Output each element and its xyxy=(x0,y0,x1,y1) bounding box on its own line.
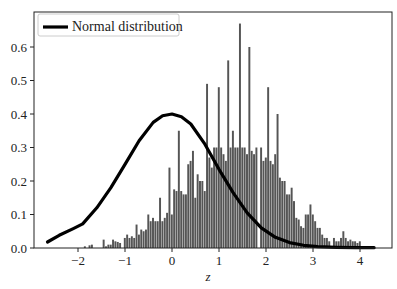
histogram-bar xyxy=(267,87,269,248)
histogram-bar xyxy=(305,215,307,249)
histogram-bar xyxy=(342,231,344,248)
histogram-bar xyxy=(110,245,112,248)
y-tick-label: 0.0 xyxy=(11,241,27,256)
histogram-bar xyxy=(225,161,227,248)
histogram-bar xyxy=(145,230,147,248)
histogram-bar xyxy=(265,158,267,248)
histogram-bar xyxy=(147,215,149,249)
histogram-bar xyxy=(201,181,203,248)
histogram-bar xyxy=(239,24,241,248)
x-tick-label: −1 xyxy=(118,253,132,268)
histogram-bar xyxy=(161,221,163,248)
histogram-bar xyxy=(114,241,116,248)
legend: Normal distribution xyxy=(38,14,183,36)
histogram-bar xyxy=(293,201,295,248)
histogram-bar xyxy=(241,148,243,249)
y-tick-label: 0.4 xyxy=(11,107,28,122)
legend-label: Normal distribution xyxy=(72,19,183,34)
y-tick-label: 0.1 xyxy=(11,207,27,222)
histogram-bar xyxy=(262,161,264,248)
histogram-bars xyxy=(84,24,361,248)
histogram-bar xyxy=(192,151,194,248)
histogram-bar xyxy=(180,191,182,248)
histogram-bar xyxy=(157,221,159,248)
histogram-bar xyxy=(176,191,178,248)
histogram-bar xyxy=(187,164,189,248)
histogram-bar xyxy=(107,245,109,248)
histogram-bar xyxy=(199,181,201,248)
histogram-bar xyxy=(154,221,156,248)
x-tick-label: 2 xyxy=(263,253,270,268)
histogram-bar xyxy=(319,228,321,248)
histogram-bar xyxy=(206,84,208,248)
histogram-bar xyxy=(190,161,192,248)
histogram-bar xyxy=(164,218,166,248)
histogram-bar xyxy=(150,221,152,248)
x-tick-label: 4 xyxy=(357,253,364,268)
histogram-bar xyxy=(309,204,311,248)
y-tick-label: 0.6 xyxy=(11,40,28,55)
histogram-bar xyxy=(220,148,222,249)
histogram-bar xyxy=(260,148,262,249)
histogram-bar xyxy=(185,194,187,248)
histogram-bar xyxy=(211,168,213,248)
x-axis-label: z xyxy=(204,269,210,284)
histogram-bar xyxy=(223,154,225,248)
histogram-bar xyxy=(133,238,135,248)
histogram-bar xyxy=(194,198,196,248)
histogram-bar xyxy=(183,194,185,248)
chart: −2−101234 0.00.10.20.30.40.50.6 z Normal… xyxy=(0,0,397,289)
histogram-bar xyxy=(126,235,128,248)
x-tick-label: −2 xyxy=(71,253,85,268)
histogram-bar xyxy=(314,221,316,248)
histogram-bar xyxy=(197,174,199,248)
histogram-bar xyxy=(168,168,170,248)
histogram-bar xyxy=(138,235,140,248)
histogram-bar xyxy=(255,148,257,249)
histogram-bar xyxy=(288,194,290,248)
histogram-bar xyxy=(119,243,121,248)
histogram-bar xyxy=(159,198,161,248)
histogram-bar xyxy=(124,238,126,248)
x-tick-label: 0 xyxy=(169,253,176,268)
histogram-bar xyxy=(166,213,168,248)
y-tick-label: 0.3 xyxy=(11,140,27,155)
histogram-bar xyxy=(284,181,286,248)
histogram-bar xyxy=(112,240,114,248)
histogram-bar xyxy=(117,242,119,248)
histogram-bar xyxy=(143,231,145,248)
histogram-bar xyxy=(171,215,173,249)
histogram-bar xyxy=(244,148,246,249)
histogram-bar xyxy=(251,151,253,248)
histogram-bar xyxy=(277,114,279,248)
histogram-bar xyxy=(317,228,319,248)
histogram-bar xyxy=(131,236,133,248)
histogram-bar xyxy=(253,154,255,248)
histogram-bar xyxy=(227,60,229,248)
histogram-bar xyxy=(204,191,206,248)
y-tick-label: 0.5 xyxy=(11,73,27,88)
histogram-bar xyxy=(307,215,309,249)
y-axis: 0.00.10.20.30.40.50.6 xyxy=(11,40,34,256)
histogram-bar xyxy=(129,238,131,248)
histogram-bar xyxy=(178,131,180,248)
y-tick-label: 0.2 xyxy=(11,174,27,189)
histogram-bar xyxy=(230,148,232,249)
plot-frame xyxy=(34,12,392,248)
histogram-bar xyxy=(140,230,142,248)
x-tick-label: 3 xyxy=(310,253,317,268)
histogram-bar xyxy=(136,225,138,248)
histogram-bar xyxy=(246,154,248,248)
histogram-bar xyxy=(208,158,210,248)
histogram-bar xyxy=(173,189,175,248)
histogram-bar xyxy=(312,215,314,249)
histogram-bar xyxy=(274,154,276,248)
x-axis: −2−101234 xyxy=(71,248,364,268)
histogram-bar xyxy=(152,218,154,248)
x-tick-label: 1 xyxy=(216,253,223,268)
histogram-bar xyxy=(91,245,93,248)
histogram-bar xyxy=(291,188,293,248)
histogram-bar xyxy=(103,240,105,248)
